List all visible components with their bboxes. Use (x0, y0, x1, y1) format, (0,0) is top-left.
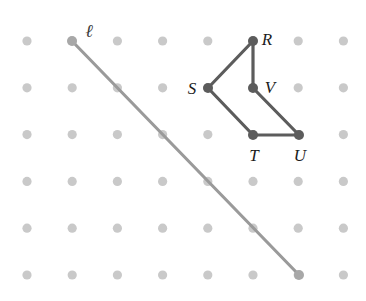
grid-dot (113, 130, 122, 139)
line-ell (72, 41, 299, 275)
grid-dot (203, 36, 212, 45)
grid-dot (248, 270, 257, 279)
vertex-point-u (294, 130, 304, 140)
grid-dot (22, 130, 31, 139)
grid-dot (113, 270, 122, 279)
grid-dot (339, 36, 348, 45)
grid-dot (113, 36, 122, 45)
grid-dot (158, 224, 167, 233)
grid-dot (22, 177, 31, 186)
grid-dot (158, 36, 167, 45)
vertex-point-v (248, 83, 258, 93)
line-ell-start-point (67, 36, 77, 46)
edge-S-T (208, 88, 253, 135)
grid-dot (203, 130, 212, 139)
grid-dot (203, 270, 212, 279)
grid-dot (339, 130, 348, 139)
grid-dot (294, 177, 303, 186)
grid-dot (203, 224, 212, 233)
grid-dot (248, 177, 257, 186)
grid-dot (158, 270, 167, 279)
vertex-label-v: V (265, 79, 275, 96)
grid-dot (113, 224, 122, 233)
grid-dot (22, 83, 31, 92)
edge-R-S (208, 41, 253, 88)
grid-dot (158, 177, 167, 186)
grid-dot (294, 224, 303, 233)
grid-dot (339, 270, 348, 279)
edge-V-U (253, 88, 299, 135)
vertex-point-s (203, 83, 213, 93)
vertex-label-u: U (294, 147, 306, 164)
figure-canvas (0, 0, 366, 301)
grid-dot (68, 177, 77, 186)
vertex-point-r (248, 36, 258, 46)
grid-dot (68, 130, 77, 139)
grid-dot (339, 224, 348, 233)
geometry-figure: RSVTUℓ (0, 0, 366, 301)
vertex-point-t (248, 130, 258, 140)
grid-dot (113, 177, 122, 186)
grid-dot (22, 270, 31, 279)
grid-dot (68, 83, 77, 92)
line-ell-label: ℓ (85, 22, 93, 40)
vertex-label-s: S (188, 80, 197, 97)
grid-dot (339, 83, 348, 92)
grid-dot (339, 177, 348, 186)
grid-dot (68, 270, 77, 279)
line-ell-group (67, 36, 304, 280)
grid-dot (294, 36, 303, 45)
grid-dot (158, 83, 167, 92)
grid-dot (22, 36, 31, 45)
line-ell-end-point (294, 270, 304, 280)
vertex-label-t: T (249, 147, 258, 164)
grid-dot (22, 224, 31, 233)
grid-dot (68, 224, 77, 233)
vertex-label-r: R (262, 31, 272, 48)
grid-dot (294, 83, 303, 92)
